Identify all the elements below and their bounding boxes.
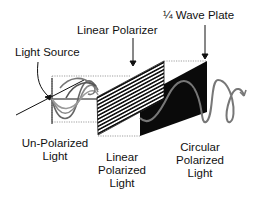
label-wave-plate: ¼ Wave Plate bbox=[163, 9, 234, 22]
label-unpolarized: Un-Polarized Light bbox=[17, 137, 93, 163]
label-linear-polarizer: Linear Polarizer bbox=[77, 24, 158, 37]
polarization-diagram: ¼ Wave Plate Linear Polarizer Light Sour… bbox=[0, 0, 256, 201]
label-light-source: Light Source bbox=[15, 46, 80, 59]
label-circular-polarized: Circular Polarized Light bbox=[170, 141, 230, 180]
label-linear-polarized: Linear Polarized Light bbox=[92, 151, 152, 190]
